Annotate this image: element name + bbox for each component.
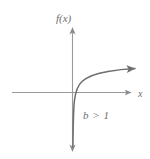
logarithmic-curve [73,69,135,147]
plot-canvas [0,0,150,159]
graph-figure: f(x) x b > 1 [0,0,150,159]
y-axis-label: f(x) [56,13,71,24]
function-curve-group [73,69,135,147]
x-axis-label: x [138,89,142,99]
base-condition-annotation: b > 1 [83,110,109,121]
